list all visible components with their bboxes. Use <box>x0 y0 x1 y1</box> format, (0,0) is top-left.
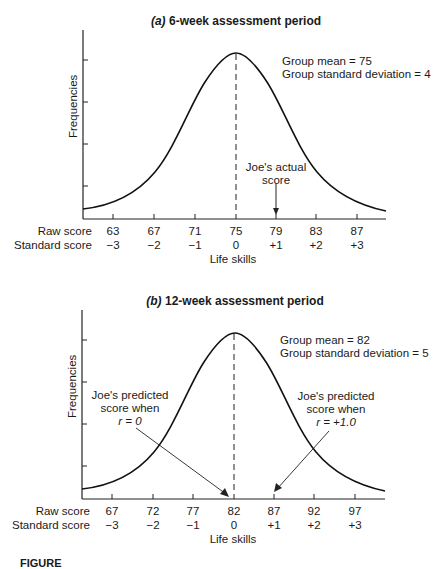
standard-tick: −1 <box>186 519 199 532</box>
raw-tick: 97 <box>349 505 362 518</box>
note-line: r = +1.0 <box>298 416 375 429</box>
note-line: Joe's predicted <box>298 390 375 403</box>
standard-tick: +1 <box>267 519 280 532</box>
standard-tick: −3 <box>105 519 118 532</box>
joe-predicted-r0-label: Joe's predicted score when r = 0 <box>92 389 169 428</box>
standard-tick: 0 <box>231 519 237 532</box>
standard-tick: +2 <box>307 519 320 532</box>
raw-tick: 92 <box>308 505 321 518</box>
chart-b-title: (b) 12-week assessment period <box>146 295 323 308</box>
standard-score-label: Standard score <box>0 519 90 532</box>
group-sd-label: Group standard deviation = 5 <box>280 347 429 360</box>
figure-caption: FIGURE <box>20 557 62 569</box>
y-axis-label: Frequencies <box>66 355 79 418</box>
note-line: Joe's predicted <box>92 389 169 402</box>
standard-tick: +3 <box>348 519 361 532</box>
standard-tick: −2 <box>146 519 159 532</box>
note-line: score when <box>92 402 169 415</box>
title-text: 12-week assessment period <box>165 294 324 308</box>
title-prefix: (b) <box>146 294 161 308</box>
x-axis-label: Life skills <box>210 533 257 546</box>
raw-score-label: Raw score <box>0 505 90 518</box>
note-line: score when <box>298 403 375 416</box>
raw-tick: 67 <box>106 505 119 518</box>
raw-tick: 87 <box>268 505 281 518</box>
note-line: r = 0 <box>92 415 169 428</box>
joe-predicted-r1-label: Joe's predicted score when r = +1.0 <box>298 390 375 429</box>
group-mean-label: Group mean = 82 <box>280 334 370 347</box>
raw-tick: 82 <box>228 505 241 518</box>
raw-tick: 72 <box>147 505 160 518</box>
raw-tick: 77 <box>187 505 200 518</box>
